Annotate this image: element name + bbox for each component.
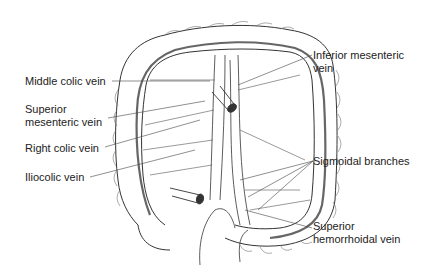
label-line-1: Inferior mesenteric	[313, 49, 404, 62]
inferior-mesenteric-trunk	[230, 55, 250, 225]
label-line-2: mesenteric vein	[25, 116, 102, 129]
colon-inner	[142, 49, 315, 229]
label-sigmoidal-branches: Sigmoidal branches	[313, 155, 410, 168]
label-line-2: hemorrhoidal vein	[313, 233, 400, 246]
label-line-2: vein	[313, 62, 404, 75]
label-line-1: Superior	[25, 103, 102, 116]
vessel-stump-upper	[212, 86, 238, 114]
label-superior-mesenteric-vein: Superior mesenteric vein	[25, 103, 102, 128]
label-right-colic-vein: Right colic vein	[25, 142, 99, 155]
rectum	[200, 209, 248, 265]
label-superior-hemorrhoidal-vein: Superior hemorrhoidal vein	[313, 220, 400, 245]
label-line-1: Superior	[313, 220, 400, 233]
label-middle-colic-vein: Middle colic vein	[25, 75, 106, 88]
superior-mesenteric-trunk	[210, 55, 225, 200]
label-iliocolic-vein: Iliocolic vein	[25, 171, 84, 184]
vessel-stump-lower	[170, 188, 205, 205]
label-inferior-mesenteric-vein: Inferior mesenteric vein	[313, 49, 404, 74]
